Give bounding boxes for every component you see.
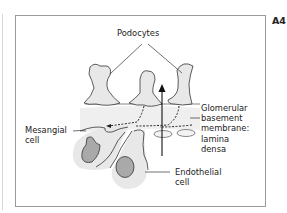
podocyte-1 — [84, 64, 120, 105]
label-mesangial-cell: Mesangial cell — [25, 125, 67, 145]
filtration-arrow-head — [159, 84, 166, 92]
podocyte-3 — [168, 64, 193, 105]
fenestration-2 — [177, 130, 195, 137]
podocyte-2 — [129, 71, 162, 107]
podocytes-leader-1 — [110, 44, 142, 74]
label-podocytes: Podocytes — [117, 28, 159, 38]
basement-membrane-band — [80, 106, 200, 132]
label-glomerular-basement-membrane: Glomerular basement membrane: lamina den… — [201, 103, 249, 154]
mesangial-leader — [73, 131, 86, 132]
endothelial-nucleus — [116, 157, 134, 178]
podocytes-leader-2 — [148, 44, 182, 73]
label-endothelial-cell: Endothelial cell — [175, 167, 221, 187]
fenestration-1 — [154, 131, 172, 138]
